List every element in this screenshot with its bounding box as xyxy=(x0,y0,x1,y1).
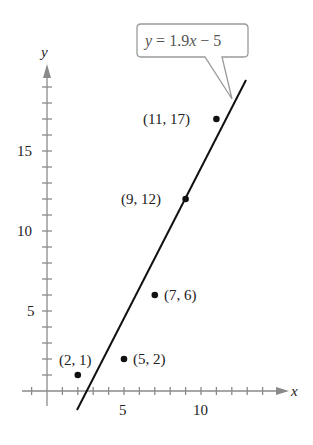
svg-text:y = 1.9x − 5: y = 1.9x − 5 xyxy=(143,32,221,50)
y-axis-label: y xyxy=(39,44,48,60)
y-tick-label-15: 15 xyxy=(17,143,32,159)
scatter-chart: x y 5 10 5 10 15 (2, 1) (5, 2) (7, 6) (9… xyxy=(0,0,313,445)
equation-callout: y = 1.9x − 5 xyxy=(137,24,248,99)
callout-end: − 5 xyxy=(196,32,221,49)
data-points xyxy=(75,116,220,379)
point-11-17 xyxy=(213,116,220,123)
y-tick-label-5: 5 xyxy=(27,303,35,319)
point-label-2-1: (2, 1) xyxy=(59,352,92,369)
point-5-2 xyxy=(121,356,128,363)
point-7-6 xyxy=(152,292,159,299)
point-2-1 xyxy=(75,372,82,379)
point-label-11-17: (11, 17) xyxy=(143,111,190,128)
y-axis-arrow-icon xyxy=(43,64,51,78)
callout-x: x xyxy=(188,32,196,49)
point-label-9-12: (9, 12) xyxy=(121,191,161,208)
x-axis-label: x xyxy=(290,383,298,399)
x-axis xyxy=(22,387,282,395)
callout-mid: = 1.9 xyxy=(152,32,189,49)
x-tick-label-10: 10 xyxy=(193,402,208,418)
point-9-12 xyxy=(182,196,189,203)
x-tick-label-5: 5 xyxy=(119,402,127,418)
y-tick-label-10: 10 xyxy=(17,223,32,239)
point-label-7-6: (7, 6) xyxy=(164,287,197,304)
x-axis-arrow-icon xyxy=(276,387,289,395)
y-axis xyxy=(42,72,52,406)
point-label-5-2: (5, 2) xyxy=(133,351,166,368)
